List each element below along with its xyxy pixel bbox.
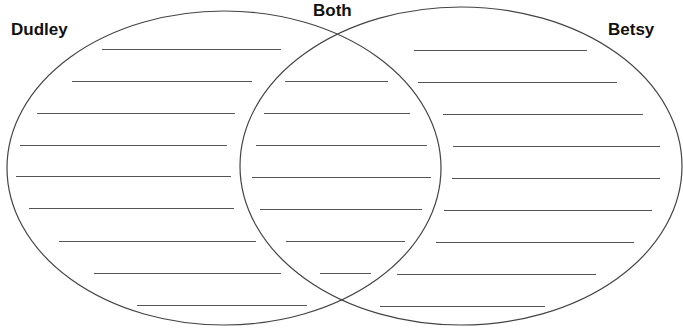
betsy-label: Betsy: [608, 20, 654, 40]
dudley-circle: [7, 11, 441, 325]
venn-diagram: [0, 0, 683, 329]
dudley-label: Dudley: [11, 20, 68, 40]
both-writing-lines: [252, 82, 431, 274]
betsy-writing-lines: [380, 51, 660, 307]
betsy-circle: [240, 7, 682, 325]
both-label: Both: [313, 1, 352, 21]
